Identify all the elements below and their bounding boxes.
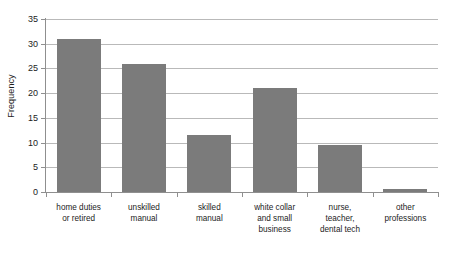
bar bbox=[253, 88, 297, 192]
bar bbox=[318, 145, 362, 192]
x-axis-tick-mark bbox=[111, 192, 112, 197]
y-axis-title-text: Frequency bbox=[6, 74, 16, 117]
x-axis-tick-mark bbox=[307, 192, 308, 197]
y-axis-tick-label: 25 bbox=[2, 63, 38, 73]
y-axis-tick-mark bbox=[41, 19, 46, 20]
x-axis-category-label: otherprofessions bbox=[373, 202, 438, 224]
y-axis-tick-label: 15 bbox=[2, 113, 38, 123]
x-axis-category-label-line: professions bbox=[373, 213, 438, 224]
x-axis-category-label-line: white collar bbox=[242, 202, 307, 213]
x-axis-category-label-line: or retired bbox=[46, 213, 111, 224]
x-axis-category-label-line: teacher, bbox=[307, 213, 372, 224]
x-axis-category-label: skilledmanual bbox=[177, 202, 242, 224]
y-axis-tick-mark bbox=[41, 44, 46, 45]
bar bbox=[187, 135, 231, 192]
y-axis-tick-mark bbox=[41, 167, 46, 168]
y-axis-tick-label: 5 bbox=[2, 162, 38, 172]
gridline bbox=[46, 44, 438, 45]
x-axis-category-label-line: nurse, bbox=[307, 202, 372, 213]
gridline bbox=[46, 143, 438, 144]
gridline bbox=[46, 19, 438, 20]
x-axis-tick-mark bbox=[177, 192, 178, 197]
x-axis-category-label: unskilledmanual bbox=[111, 202, 176, 224]
y-axis-tick-mark bbox=[41, 118, 46, 119]
x-axis-category-label-line: other bbox=[373, 202, 438, 213]
x-axis-category-label-line: unskilled bbox=[111, 202, 176, 213]
x-axis-category-label-line: home duties bbox=[46, 202, 111, 213]
y-axis-tick-label: 0 bbox=[2, 187, 38, 197]
y-axis-tick-label: 30 bbox=[2, 39, 38, 49]
x-axis-tick-mark bbox=[46, 192, 47, 197]
y-axis-tick-mark bbox=[41, 143, 46, 144]
x-axis-category-label-line: dental tech bbox=[307, 224, 372, 235]
bar bbox=[57, 39, 101, 192]
gridline bbox=[46, 68, 438, 69]
x-axis-category-label-line: skilled bbox=[177, 202, 242, 213]
y-axis-tick-label: 20 bbox=[2, 88, 38, 98]
x-axis-tick-mark bbox=[438, 192, 439, 197]
x-axis-category-label-line: manual bbox=[177, 213, 242, 224]
x-axis-tick-mark bbox=[373, 192, 374, 197]
y-axis-tick-mark bbox=[41, 68, 46, 69]
gridline bbox=[46, 167, 438, 168]
y-axis-tick-label: 10 bbox=[2, 138, 38, 148]
plot-area bbox=[46, 19, 438, 192]
x-axis-category-label: white collarand smallbusiness bbox=[242, 202, 307, 236]
x-axis-category-label-line: and small bbox=[242, 213, 307, 224]
gridline bbox=[46, 118, 438, 119]
x-axis-category-label: home dutiesor retired bbox=[46, 202, 111, 224]
bar-chart: Frequency 05101520253035 home dutiesor r… bbox=[0, 0, 457, 256]
x-axis-tick-mark bbox=[242, 192, 243, 197]
x-axis-category-label-line: business bbox=[242, 224, 307, 235]
y-axis-tick-mark bbox=[41, 93, 46, 94]
y-axis-title: Frequency bbox=[2, 0, 20, 192]
bar bbox=[122, 64, 166, 193]
gridline bbox=[46, 93, 438, 94]
bar bbox=[383, 189, 427, 192]
x-axis-category-label-line: manual bbox=[111, 213, 176, 224]
y-axis-tick-mark bbox=[41, 192, 46, 193]
y-axis-tick-label: 35 bbox=[2, 14, 38, 24]
x-axis-category-label: nurse,teacher,dental tech bbox=[307, 202, 372, 236]
